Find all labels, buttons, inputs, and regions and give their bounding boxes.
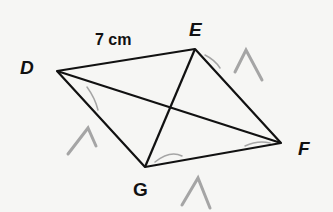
shape-lines <box>57 49 281 167</box>
diagram-canvas: D E F G 7 cm <box>0 0 333 212</box>
vertex-label-d: D <box>20 57 34 79</box>
diagonal-eg <box>145 49 195 167</box>
caret-mark-ef <box>235 50 262 80</box>
quadrilateral-figure <box>0 0 333 212</box>
caret-mark-gf <box>182 178 210 208</box>
vertex-label-f: F <box>298 138 310 160</box>
vertex-label-g: G <box>133 179 148 201</box>
caret-mark-dg <box>68 128 96 154</box>
vertex-label-e: E <box>189 19 202 41</box>
side-length-label: 7 cm <box>95 31 131 49</box>
